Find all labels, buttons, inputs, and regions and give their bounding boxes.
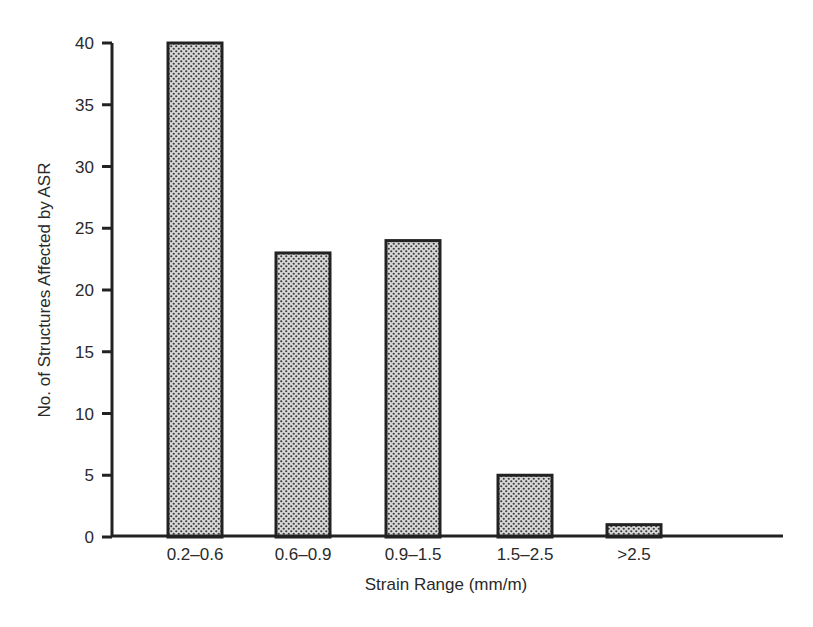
bar-chart: 0510152025303540 0.2–0.60.6–0.90.9–1.51.… [0,0,813,627]
y-tick-label: 25 [75,219,94,238]
y-tick-label: 5 [85,466,94,485]
y-tick-label: 15 [75,343,94,362]
x-tick-label: 0.6–0.9 [275,545,332,564]
x-tick-label: 1.5–2.5 [497,545,554,564]
bar-4 [498,475,552,537]
x-axis-labels: 0.2–0.60.6–0.90.9–1.51.5–2.5>2.5 [167,545,651,564]
bars [168,43,661,537]
y-tick-label: 10 [75,405,94,424]
y-axis-ticks: 0510152025303540 [75,34,112,547]
bar-3 [386,241,440,537]
x-tick-label: >2.5 [617,545,651,564]
y-tick-label: 20 [75,281,94,300]
bar-1 [168,43,222,537]
y-tick-label: 30 [75,158,94,177]
x-tick-label: 0.2–0.6 [167,545,224,564]
y-axis-title: No. of Structures Affected by ASR [35,163,54,418]
x-axis-title: Strain Range (mm/m) [365,575,527,594]
y-tick-label: 35 [75,96,94,115]
y-tick-label: 40 [75,34,94,53]
bar-2 [276,253,330,537]
y-tick-label: 0 [85,528,94,547]
x-tick-label: 0.9–1.5 [385,545,442,564]
